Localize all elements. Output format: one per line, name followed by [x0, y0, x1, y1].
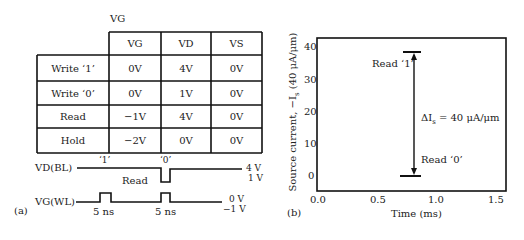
x-tick: 1.5 [488, 194, 504, 205]
panel-b-caption: (b) [287, 207, 301, 218]
x-tick: 1.0 [428, 194, 444, 205]
read-0-annotation: Read ‘0’ [421, 154, 463, 165]
y-tick: 40 [304, 41, 317, 52]
delta-annotation: ΔIs = 40 μA/μm [421, 112, 499, 126]
y-tick: 10 [304, 138, 317, 149]
y-tick: 0 [308, 170, 314, 181]
x-axis-label: Time (ms) [391, 208, 442, 219]
y-tick: 30 [304, 74, 317, 85]
y-tick: 20 [304, 106, 317, 117]
y-axis-label: Source current, −Is (40 μA/μm) [287, 32, 301, 191]
x-tick: 0.0 [310, 194, 326, 205]
x-tick: 0.5 [370, 194, 386, 205]
read-1-annotation: Read ‘1’ [372, 58, 414, 69]
arrow-down-icon [411, 168, 417, 175]
